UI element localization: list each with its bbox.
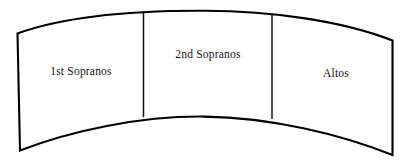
label-second-sopranos: 2nd Sopranos (175, 48, 241, 61)
label-altos: Altos (323, 67, 349, 79)
choir-arc-diagram: 1st Sopranos 2nd Sopranos Altos (0, 0, 408, 165)
choir-arc-svg: 1st Sopranos 2nd Sopranos Altos (0, 0, 408, 165)
label-first-sopranos: 1st Sopranos (50, 65, 112, 78)
